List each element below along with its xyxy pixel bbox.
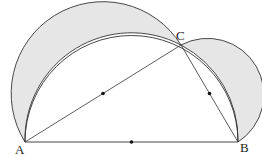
lune-bc [181, 38, 262, 142]
geometry-figure: A B C [0, 0, 262, 156]
label-c: C [176, 28, 185, 43]
label-a: A [15, 142, 25, 156]
midpoint-bc [208, 92, 212, 96]
label-b: B [240, 140, 249, 155]
midpoint-ac [101, 92, 105, 96]
midpoint-ab [130, 140, 134, 144]
lune-ac [11, 2, 181, 142]
